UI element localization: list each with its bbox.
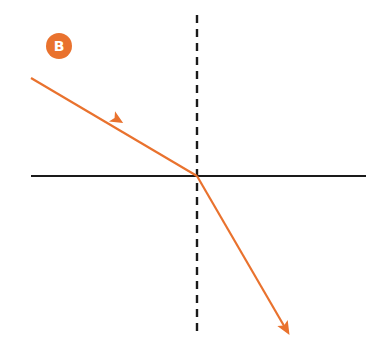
badge-label: B [54, 38, 65, 54]
refracted-ray [197, 176, 287, 331]
refraction-diagram: B [0, 0, 390, 350]
label-badge: B [46, 33, 72, 59]
incident-ray [31, 78, 197, 176]
refracted-arrow-icon [277, 320, 294, 338]
